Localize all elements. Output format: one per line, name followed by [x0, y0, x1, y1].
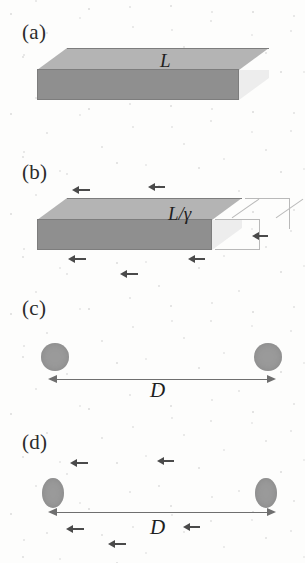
slab-top-face [37, 198, 242, 220]
physics-figure-lorentz-contraction: (a) L (b) [0, 0, 305, 563]
separation-label-D: D [150, 378, 165, 403]
slab-at-rest [37, 48, 269, 100]
arrow-shaft [256, 235, 268, 237]
slab-edge-right-vertical [211, 219, 212, 250]
slab-side-face [212, 220, 242, 250]
sphere-right-contracted [255, 478, 277, 508]
slab-top-face [37, 48, 269, 70]
arrow-shaft [74, 462, 88, 464]
slab-edge-right-vertical [238, 69, 239, 100]
length-label-L-over-gamma: L/γ [168, 203, 191, 225]
slab-edge-top-back [67, 48, 269, 49]
slab-edge-bottom-front [37, 99, 239, 100]
slab-contracted [37, 198, 242, 250]
panel-a: (a) L [0, 0, 305, 140]
length-label-L: L [160, 50, 171, 72]
panel-c-label: (c) [22, 296, 46, 321]
arrow-shaft [112, 543, 126, 545]
arrow-shaft [72, 258, 86, 260]
panel-b: (b) L/γ [0, 140, 305, 285]
slab-edge-top-back [67, 198, 242, 199]
arrow-head-right-icon [267, 508, 276, 516]
slab-side-face [239, 70, 269, 100]
arrow-shaft [161, 460, 174, 462]
arrow-head-right-icon [267, 375, 276, 383]
measure-shaft [54, 512, 270, 513]
slab-front-face [37, 70, 239, 100]
slab-edge-left-vertical [37, 69, 38, 100]
arrow-shaft [76, 189, 90, 191]
arrow-shaft [152, 186, 165, 188]
panel-c: (c) D [0, 285, 305, 415]
ghost-edge-top-back [245, 198, 290, 199]
sphere-right-at-rest [254, 343, 282, 371]
arrow-shaft [187, 526, 200, 528]
arrow-shaft [70, 528, 84, 530]
slab-edge-top-front [37, 69, 239, 70]
separation-label-D: D [150, 515, 165, 540]
panel-d: (d) D [0, 415, 305, 563]
arrow-shaft [192, 258, 205, 260]
slab-edge-bottom-front [37, 249, 212, 250]
sphere-left-contracted [42, 478, 64, 508]
ghost-edge-back-vertical [289, 198, 290, 229]
slab-edge-left-vertical [37, 219, 38, 250]
arrow-shaft [124, 273, 138, 275]
panel-a-label: (a) [22, 20, 46, 45]
sphere-left-at-rest [41, 343, 69, 371]
panel-d-label: (d) [22, 430, 47, 455]
panel-b-label: (b) [22, 160, 47, 185]
